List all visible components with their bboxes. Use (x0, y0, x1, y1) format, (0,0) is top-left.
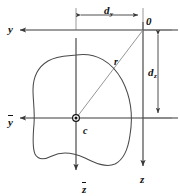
centroid-center-dot (75, 117, 78, 120)
axis-z-label: z (140, 174, 144, 185)
dimension-dz-label: dz (148, 67, 157, 80)
dimension-dz-base: d (148, 66, 154, 78)
axis-y-bar-label: y (8, 117, 13, 128)
centroid-marker (73, 115, 80, 122)
axis-z-bar-text: z (82, 183, 86, 195)
dimension-dz-subscript: z (154, 72, 157, 80)
axis-y-bar-text: y (8, 116, 13, 128)
diagram-canvas (0, 0, 180, 196)
figure-container: 0 y y z z c r dy dz (0, 0, 180, 196)
dimension-dy-subscript: y (110, 10, 113, 18)
centroid-label: c (83, 126, 87, 136)
y-bar-overline (8, 115, 13, 116)
radius-label: r (114, 57, 118, 67)
radius-line-r (77, 30, 143, 117)
dimension-dy-label: dy (104, 5, 113, 18)
axis-y-label: y (8, 24, 13, 35)
axis-z-bar-label: z (82, 184, 86, 195)
origin-label: 0 (146, 16, 152, 27)
dimension-dy-base: d (104, 4, 110, 16)
z-bar-overline (82, 182, 86, 183)
